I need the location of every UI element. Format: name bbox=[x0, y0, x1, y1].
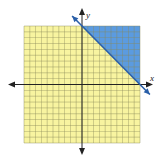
y-axis-label: y bbox=[85, 10, 90, 20]
x-axis-label: x bbox=[149, 73, 154, 83]
inequality-graph: x y bbox=[0, 0, 161, 162]
